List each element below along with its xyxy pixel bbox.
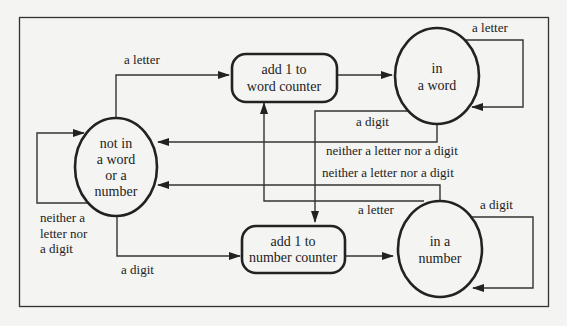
state-diagram: a letter a letter a digit neither a lett…	[0, 0, 567, 326]
svg-text:word counter: word counter	[247, 79, 322, 94]
svg-text:or a: or a	[105, 168, 127, 183]
edge-label: a digit	[356, 114, 389, 129]
edge-label: neither a	[40, 210, 85, 225]
edge-label: a letter	[124, 52, 160, 67]
edge-label: neither a letter nor a digit	[326, 143, 458, 158]
edge-not-in-to-add-number: a digit	[117, 216, 240, 277]
edge-in-word-to-not-in: neither a letter nor a digit	[158, 124, 458, 158]
edge-label: a digit	[121, 262, 154, 277]
action-add-number-counter: add 1 to number counter	[242, 226, 345, 273]
state-in-word: in a word	[395, 28, 479, 124]
svg-text:number counter: number counter	[249, 250, 338, 265]
svg-text:add 1 to: add 1 to	[261, 62, 306, 77]
svg-text:add 1 to: add 1 to	[270, 234, 315, 249]
edge-not-in-to-add-word: a letter	[116, 52, 229, 118]
svg-text:not in: not in	[100, 136, 132, 151]
svg-text:number: number	[419, 251, 462, 266]
edge-label: a letter	[358, 202, 394, 217]
svg-text:number: number	[95, 184, 138, 199]
state-in-number: in a number	[398, 201, 482, 297]
svg-text:in a: in a	[430, 234, 451, 249]
edge-label: neither a letter nor a digit	[322, 165, 454, 180]
svg-text:in: in	[432, 61, 443, 76]
svg-text:a word: a word	[418, 78, 457, 93]
state-not-in-word-or-number: not in a word or a number	[75, 118, 157, 216]
action-add-word-counter: add 1 to word counter	[232, 54, 337, 102]
edge-label: a letter	[472, 20, 508, 35]
edge-label: a digit	[40, 241, 73, 256]
svg-text:a word: a word	[97, 152, 136, 167]
edge-in-number-to-add-word: a letter	[264, 103, 424, 217]
edge-label: letter nor	[40, 226, 88, 241]
edge-in-number-to-not-in: neither a letter nor a digit	[158, 165, 454, 200]
edge-label: a digit	[480, 197, 513, 212]
